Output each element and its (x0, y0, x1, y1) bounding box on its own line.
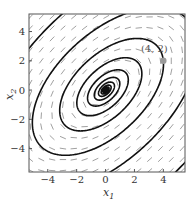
y-axis-label: x2 (3, 89, 18, 100)
phase-portrait-chart: −4−2024−4−2024 (4, 2) x1 x2 (0, 0, 196, 205)
svg-text:2: 2 (131, 174, 137, 185)
svg-text:−4: −4 (10, 143, 25, 154)
svg-text:−2: −2 (69, 174, 84, 185)
svg-text:−4: −4 (40, 174, 55, 185)
svg-text:0: 0 (19, 85, 25, 96)
svg-text:4: 4 (19, 26, 25, 37)
svg-text:4: 4 (160, 174, 166, 185)
x-axis-label: x1 (103, 186, 114, 201)
start-point-label: (4, 2) (141, 43, 168, 54)
svg-text:−2: −2 (10, 114, 25, 125)
start-point-marker (160, 58, 166, 64)
svg-text:2: 2 (19, 55, 25, 66)
svg-text:0: 0 (102, 174, 108, 185)
